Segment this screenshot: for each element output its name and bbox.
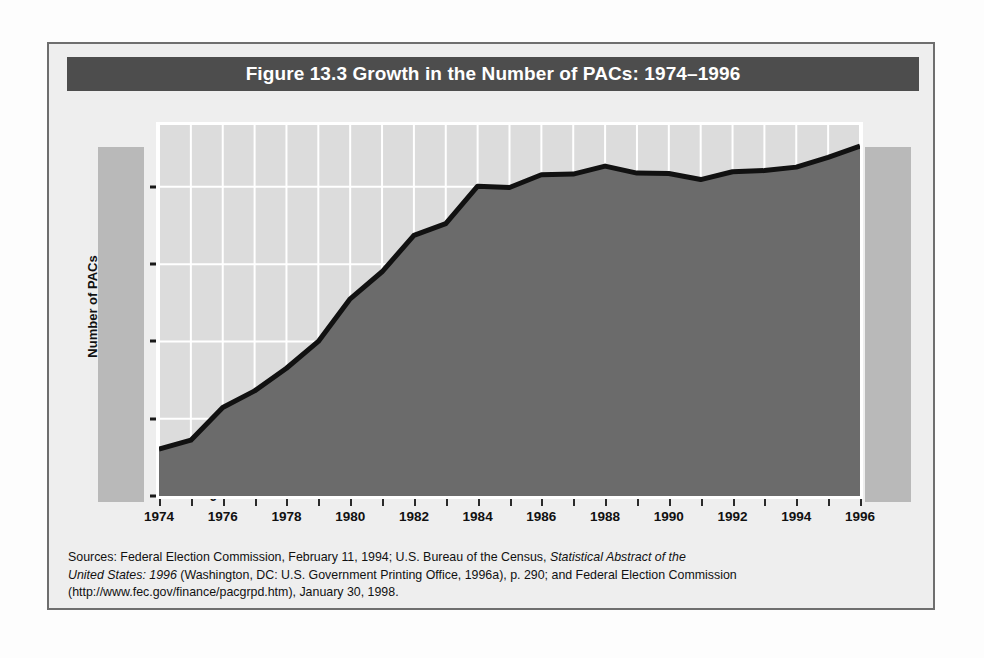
x-tick-mark <box>191 499 193 506</box>
x-tick-label: 1992 <box>718 509 748 524</box>
x-tick-mark <box>255 499 257 506</box>
source-line-1-italic: Statistical Abstract of the <box>550 550 686 564</box>
x-tick-mark <box>796 499 798 506</box>
x-tick-mark <box>350 499 352 506</box>
x-tick-mark <box>541 499 543 506</box>
x-tick-mark <box>318 499 320 506</box>
x-tick-label: 1986 <box>526 509 556 524</box>
x-tick-mark <box>860 499 862 506</box>
figure-frame: Figure 13.3 Growth in the Number of PACs… <box>47 42 935 610</box>
x-tick-mark <box>446 499 448 506</box>
x-tick-label: 1976 <box>208 509 238 524</box>
x-tick-mark <box>733 499 735 506</box>
x-tick-label: 1980 <box>335 509 365 524</box>
x-tick-mark <box>478 499 480 506</box>
plot-box <box>156 122 863 499</box>
page-title: Figure 13.3 Growth in the Number of PACs… <box>246 63 741 85</box>
x-tick-mark <box>828 499 830 506</box>
x-tick-mark <box>573 499 575 506</box>
x-tick-label: 1990 <box>654 509 684 524</box>
x-tick-mark <box>223 499 225 506</box>
x-tick-mark <box>637 499 639 506</box>
x-tick-mark <box>605 499 607 506</box>
x-tick-label: 1984 <box>463 509 493 524</box>
x-tick-label: 1978 <box>271 509 301 524</box>
page-background: Figure 13.3 Growth in the Number of PACs… <box>0 0 984 658</box>
left-gray-band <box>98 147 144 502</box>
source-note: Sources: Federal Election Commission, Fe… <box>68 549 918 602</box>
x-tick-mark <box>382 499 384 506</box>
x-tick-mark <box>669 499 671 506</box>
x-tick-label: 1996 <box>845 509 875 524</box>
plot-inner <box>159 125 860 496</box>
pac-growth-area-chart <box>159 125 860 496</box>
x-tick-mark <box>286 499 288 506</box>
x-tick-mark <box>701 499 703 506</box>
source-line-1a: Sources: Federal Election Commission, Fe… <box>68 550 550 564</box>
x-tick-label: 1988 <box>590 509 620 524</box>
x-tick-mark <box>414 499 416 506</box>
source-line-2b: (Washington, DC: U.S. Government Printin… <box>177 568 737 582</box>
x-tick-mark <box>510 499 512 506</box>
right-gray-band <box>865 147 911 502</box>
source-line-3: (http://www.fec.gov/finance/pacgrpd.htm)… <box>68 585 399 599</box>
y-axis-title: Number of PACs <box>85 237 100 377</box>
x-tick-label: 1982 <box>399 509 429 524</box>
figure-title-bar: Figure 13.3 Growth in the Number of PACs… <box>67 57 919 91</box>
x-tick-label: 1974 <box>144 509 174 524</box>
x-tick-label: 1994 <box>781 509 811 524</box>
source-line-2-italic: United States: 1996 <box>68 568 177 582</box>
x-tick-mark <box>159 499 161 506</box>
x-tick-mark <box>764 499 766 506</box>
chart-area: Number of PACs 01,0002,0003,0004,000 197… <box>49 104 933 544</box>
